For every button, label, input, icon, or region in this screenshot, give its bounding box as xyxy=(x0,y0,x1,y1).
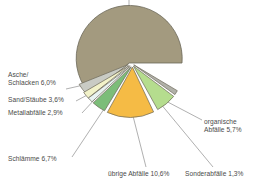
label-organische-abfaelle-line2: Abfälle 5,7% xyxy=(204,126,242,134)
leader-line-sonder xyxy=(160,103,213,167)
label-uebrige-abfaelle: übrige Abfälle 10,6% xyxy=(108,170,170,178)
leader-line-schlaemme xyxy=(72,109,104,157)
label-sonderabfaelle: Sonderabfälle 1,3% xyxy=(185,170,243,178)
label-organische-abfaelle: organische Abfälle 5,7% xyxy=(204,118,242,134)
label-metallabfaelle: Metallabfälle 2,9% xyxy=(8,109,63,117)
label-schlaemme: Schlämme 6,7% xyxy=(8,155,57,163)
pie-chart-figure: Asche/ Schlacken 6,0% Sand/Stäube 3,6% M… xyxy=(0,0,254,183)
label-asche-schlacken-line2: Schlacken 6,0% xyxy=(8,79,56,87)
label-organische-abfaelle-line1: organische xyxy=(204,118,242,126)
label-sand-staube: Sand/Stäube 3,6% xyxy=(8,96,64,104)
leader-line-uebrige xyxy=(133,116,146,167)
label-asche-schlacken: Asche/ Schlacken 6,0% xyxy=(8,71,56,87)
label-asche-schlacken-line1: Asche/ xyxy=(8,71,56,79)
